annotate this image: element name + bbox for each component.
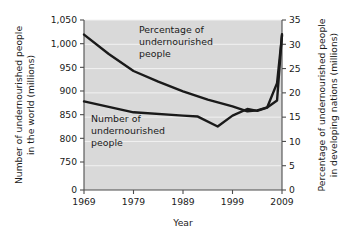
right-axis-title: Percentage of undernourished people in d… xyxy=(316,18,339,191)
annotation-percentage-line-1: Percentage of xyxy=(139,24,204,35)
left-axis-tick-label: 1,000 xyxy=(51,38,77,49)
left-axis-tick-label: 950 xyxy=(59,62,77,73)
right-axis-title-line-2: in developing nations (millions) xyxy=(328,33,339,177)
left-axis-title-line-2: in the world (millions) xyxy=(25,55,36,155)
right-axis-tick-label: 30 xyxy=(289,39,301,50)
x-axis-tick-labels: 19691979198919992009 xyxy=(72,196,294,207)
chart-figure: 07508008509009501,0001,050 0510152025303… xyxy=(0,0,350,237)
right-axis-tick-label: 10 xyxy=(289,136,301,147)
left-axis-tick-label: 1,050 xyxy=(51,14,77,25)
left-axis-tick-label: 750 xyxy=(59,156,77,167)
right-axis-tick-labels: 05101520253035 xyxy=(289,14,301,195)
right-axis-tick-label: 15 xyxy=(289,111,301,122)
x-axis-tick-label: 1989 xyxy=(171,196,195,207)
x-axis-tick-label: 1979 xyxy=(122,196,146,207)
left-axis xyxy=(80,20,84,190)
annotation-number-line-1: Number of xyxy=(91,113,141,124)
left-axis-title-line-1: Number of undernourished people xyxy=(13,26,24,184)
left-axis-tick-label: 850 xyxy=(59,109,77,120)
right-axis-tick-label: 35 xyxy=(289,14,301,25)
x-axis-tick-label: 2009 xyxy=(270,196,294,207)
right-axis-tick-label: 5 xyxy=(289,160,295,171)
right-axis-tick-label: 0 xyxy=(289,184,295,195)
right-axis-title-line-1: Percentage of undernourished people xyxy=(316,18,327,191)
right-axis-tick-label: 20 xyxy=(289,87,301,98)
left-axis-title: Number of undernourished people in the w… xyxy=(13,26,36,184)
undernourishment-dual-axis-line-chart: 07508008509009501,0001,050 0510152025303… xyxy=(0,0,350,237)
x-axis-title: Year xyxy=(172,217,193,228)
x-axis-tick-label: 1999 xyxy=(221,196,245,207)
left-axis-tick-labels: 07508008509009501,0001,050 xyxy=(51,14,77,195)
right-axis-tick-label: 25 xyxy=(289,63,301,74)
left-axis-tick-label: 0 xyxy=(71,184,77,195)
x-axis xyxy=(84,190,282,194)
x-axis-tick-label: 1969 xyxy=(72,196,96,207)
annotation-percentage-line-3: people xyxy=(139,48,171,59)
annotation-number-line-2: undernourished xyxy=(91,125,165,136)
left-axis-tick-label: 800 xyxy=(59,133,77,144)
left-axis-tick-label: 900 xyxy=(59,85,77,96)
annotation-percentage-line-2: undernourished xyxy=(139,36,213,47)
annotation-number-line-3: people xyxy=(91,137,123,148)
right-axis xyxy=(282,20,286,190)
